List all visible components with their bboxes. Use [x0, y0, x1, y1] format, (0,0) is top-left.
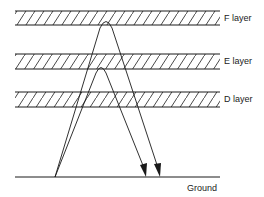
d-layer-label: D layer	[224, 95, 253, 104]
f-ray-arrowhead-icon	[154, 163, 161, 177]
e-layer-band	[15, 54, 220, 69]
f-layer-label: F layer	[224, 14, 252, 23]
d-layer-band	[15, 92, 220, 107]
ground-label: Ground	[187, 184, 217, 193]
e-ray-arrowhead-icon	[140, 163, 147, 177]
e-layer-label: E layer	[224, 57, 252, 66]
f-layer-band	[15, 11, 220, 25]
e-layer-ray	[55, 68, 147, 178]
